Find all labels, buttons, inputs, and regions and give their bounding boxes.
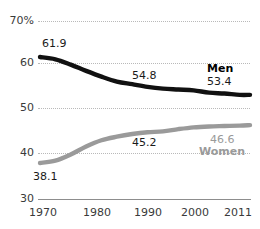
line-chart: 70% 60 50 40 30 1970 1980 1990 2000 2011… bbox=[0, 0, 260, 229]
data-label-women-1994: 45.2 bbox=[132, 137, 157, 149]
data-label-men-2011: 53.4 bbox=[207, 76, 232, 88]
data-label-men-1994: 54.8 bbox=[132, 70, 157, 82]
data-label-women-1970: 38.1 bbox=[33, 171, 58, 183]
series-label-men: Men bbox=[207, 63, 233, 75]
series-label-women: Women bbox=[199, 146, 245, 158]
plot-area bbox=[0, 0, 260, 229]
data-label-men-1970: 61.9 bbox=[42, 38, 67, 50]
